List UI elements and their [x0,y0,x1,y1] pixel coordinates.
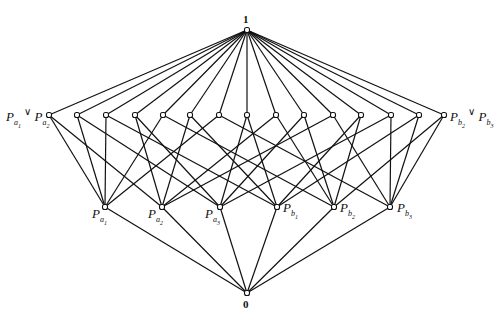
join-node [161,113,166,118]
atom-label-b3: Pb3 [397,200,412,219]
edge-top-join [135,30,247,115]
edge-top-join [106,30,247,115]
join-node [331,113,336,118]
edge-atom-bottom [247,207,334,293]
atom-label-a1: Pa1 [92,206,107,225]
join-node [104,113,109,118]
join-node [442,113,447,118]
edge-join-atom [49,115,105,207]
edge-join-atom [333,115,390,207]
edge-join-atom [220,115,247,207]
edge-join-atom [162,115,190,207]
right-join-label: Pb2 ∨ Pb3 [450,106,493,128]
edge-top-join [247,30,391,115]
left-join-label: Pa1 ∨ Pa2 [6,106,49,128]
lattice-diagram [0,0,497,321]
join-node [188,113,193,118]
edge-atom-bottom [105,207,247,293]
edge-join-atom [334,115,444,207]
bottom-element-label: 0 [243,298,249,310]
atom-label-a2: Pa2 [148,206,163,225]
edge-join-atom [162,115,276,207]
atom-label-b1: Pb1 [283,200,298,219]
edge-join-atom [105,115,219,207]
join-node [302,113,307,118]
atom-node [332,205,337,210]
join-node [274,113,279,118]
bottom-node [245,291,250,296]
join-node [389,113,394,118]
atom-node [388,205,393,210]
join-node [217,113,222,118]
join-node [133,113,138,118]
edge-top-join [77,30,247,115]
edge-join-atom [105,115,163,207]
edge-top-join [247,30,361,115]
join-node [417,113,422,118]
edge-join-atom [105,115,106,207]
edge-atom-bottom [247,207,390,293]
edge-top-join [49,30,247,115]
join-node [75,113,80,118]
edge-top-join [219,30,247,115]
edge-join-atom [390,115,419,207]
top-node [245,28,250,33]
edge-join-atom [77,115,105,207]
edge-top-join [247,30,419,115]
atom-label-a3: Pa3 [205,206,220,225]
join-node [359,113,364,118]
edge-join-atom [220,115,304,207]
top-element-label: 1 [243,13,249,25]
edge-join-atom [390,115,391,207]
edge-top-join [247,30,444,115]
edge-atom-bottom [247,207,277,293]
atom-node [275,205,280,210]
lattice-edges [49,30,444,293]
join-node [245,113,250,118]
atom-label-b2: Pb2 [340,200,355,219]
